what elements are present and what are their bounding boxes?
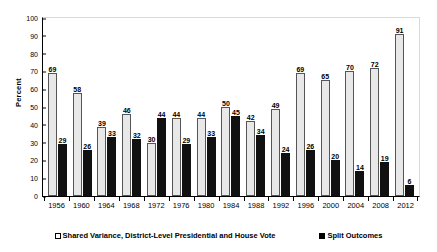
filled-square-marker-icon [319,233,325,239]
bar-dark-1996: 26 [306,150,315,196]
bar-light-1960: 58 [73,93,82,196]
bar-value-label: 42 [247,114,255,121]
bar-light-2004: 70 [345,71,354,196]
legend-item: Shared Variance, District-Level Presiden… [55,231,276,240]
y-axis-tick-label: 40 [30,121,43,128]
x-axis-label-2000: 2000 [318,199,343,215]
x-axis-label-2004: 2004 [343,199,368,215]
bar-light-1980: 44 [197,118,206,196]
bar-dark-1976: 29 [182,144,191,196]
bar-light-2008: 72 [370,68,379,196]
y-axis-tick-label: 60 [30,86,43,93]
bar-light-1976: 44 [172,118,181,196]
bar-group-1980: 4433 [194,18,219,196]
bar-value-label: 29 [58,137,66,144]
bar-group-1964: 3933 [95,18,120,196]
bar-value-label: 46 [123,107,131,114]
bar-value-label: 26 [306,143,314,150]
bar-dark-1992: 24 [281,153,290,196]
y-axis-tick-label: 20 [30,157,43,164]
x-axis-label-1980: 1980 [194,199,219,215]
bar-value-label: 44 [158,111,166,118]
bar-value-label: 26 [83,143,91,150]
bar-value-label: 72 [371,61,379,68]
x-axis-labels: 1956196019641968197219761980198419881992… [42,199,420,215]
x-axis-label-1964: 1964 [94,199,119,215]
y-axis-tick-label: 30 [30,139,43,146]
bar-value-label: 69 [296,66,304,73]
y-axis-tick-label: 80 [30,50,43,57]
bar-dark-1972: 44 [157,118,166,196]
bar-value-label: 29 [182,137,190,144]
bar-value-label: 70 [346,64,354,71]
x-axis-label-1984: 1984 [219,199,244,215]
x-axis-label-1996: 1996 [293,199,318,215]
bar-chart: Percent 1009080706050403020100 692958263… [0,0,437,252]
y-axis-tick-label: 90 [30,32,43,39]
bar-value-label: 30 [148,136,156,143]
plot-area: 1009080706050403020100 69295826393346323… [42,17,420,197]
x-axis-label-1956: 1956 [44,199,69,215]
bar-group-1976: 4429 [169,18,194,196]
bar-dark-2000: 20 [331,160,340,196]
bar-value-label: 20 [331,153,339,160]
bar-light-2000: 65 [321,80,330,196]
bar-dark-1960: 26 [83,150,92,196]
bar-value-label: 65 [321,73,329,80]
x-axis-label-1992: 1992 [268,199,293,215]
bar-value-label: 69 [48,66,56,73]
bar-value-label: 44 [197,111,205,118]
x-axis-label-1988: 1988 [244,199,269,215]
bar-group-2004: 7014 [343,18,368,196]
bar-value-label: 49 [272,102,280,109]
y-axis-tick-label: 100 [26,15,43,22]
y-axis-title: Percent [14,53,23,133]
bar-value-label: 34 [257,128,265,135]
bar-value-label: 58 [73,86,81,93]
bar-dark-2004: 14 [355,171,364,196]
bar-dark-1968: 32 [132,139,141,196]
bar-value-label: 33 [108,130,116,137]
bar-group-1972: 3044 [144,18,169,196]
bar-group-1960: 5826 [70,18,95,196]
x-axis-label-1972: 1972 [144,199,169,215]
y-axis-tick-label: 50 [30,104,43,111]
bar-light-1996: 69 [296,73,305,196]
bar-group-1992: 4924 [268,18,293,196]
bar-group-1984: 5045 [219,18,244,196]
legend-label: Shared Variance, District-Level Presiden… [63,231,276,240]
bar-group-1988: 4234 [243,18,268,196]
bar-value-label: 14 [356,164,364,171]
x-axis-label-1976: 1976 [169,199,194,215]
bar-dark-1988: 34 [256,135,265,196]
bar-group-1956: 6929 [45,18,70,196]
x-axis-label-1960: 1960 [69,199,94,215]
bar-light-1956: 69 [48,73,57,196]
x-axis-label-1968: 1968 [119,199,144,215]
bar-value-label: 19 [381,155,389,162]
bar-dark-1956: 29 [58,144,67,196]
bar-light-1968: 46 [122,114,131,196]
bar-dark-1984: 45 [231,116,240,196]
bar-light-2012: 91 [395,34,404,196]
bar-group-1996: 6926 [293,18,318,196]
bar-dark-2008: 19 [380,162,389,196]
bar-light-1992: 49 [271,109,280,196]
bar-dark-2012: 6 [405,185,414,196]
bar-value-label: 24 [282,146,290,153]
bar-value-label: 91 [396,27,404,34]
bar-value-label: 32 [133,132,141,139]
bar-light-1984: 50 [221,107,230,196]
bar-groups: 6929582639334632304444294433504542344924… [43,18,419,196]
legend-label: Split Outcomes [327,231,382,240]
x-axis-label-2008: 2008 [368,199,393,215]
bar-group-1968: 4632 [119,18,144,196]
x-axis-label-2012: 2012 [393,199,418,215]
bar-light-1988: 42 [246,121,255,196]
bar-value-label: 6 [408,178,412,185]
bar-dark-1980: 33 [207,137,216,196]
bar-light-1964: 39 [97,127,106,196]
y-axis-tick-label: 10 [30,175,43,182]
open-square-marker-icon [55,233,61,239]
bar-value-label: 39 [98,120,106,127]
